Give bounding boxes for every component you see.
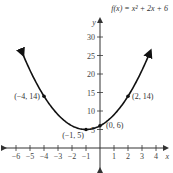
point-label: (0, 6) bbox=[106, 121, 124, 130]
x-tick-label: −2 bbox=[68, 152, 77, 161]
point-label: (−4, 14) bbox=[14, 92, 40, 101]
parabola-chart: xy−6−5−4−3−2−1123451015202530 (−4, 14)(−… bbox=[0, 0, 173, 173]
x-axis-label: x bbox=[164, 152, 169, 161]
curve-path bbox=[22, 53, 149, 130]
data-point bbox=[42, 94, 46, 98]
point-label: (2, 14) bbox=[132, 92, 154, 101]
x-tick-label: −4 bbox=[40, 152, 49, 161]
y-axis-label: y bbox=[91, 18, 96, 27]
x-tick-label: −3 bbox=[54, 152, 63, 161]
x-tick-label: −6 bbox=[12, 152, 21, 161]
x-tick-label: 1 bbox=[112, 152, 116, 161]
x-tick-label: −1 bbox=[82, 152, 91, 161]
labeled-points: (−4, 14)(−1, 5)(0, 6)(2, 14) bbox=[14, 92, 154, 139]
y-tick-label: 25 bbox=[87, 52, 95, 61]
point-label: (−1, 5) bbox=[62, 131, 84, 140]
y-tick-label: 20 bbox=[87, 70, 95, 79]
x-tick-label: 4 bbox=[154, 152, 158, 161]
x-tick-label: 2 bbox=[126, 152, 130, 161]
data-point bbox=[126, 94, 130, 98]
y-tick-label: 10 bbox=[87, 107, 95, 116]
x-tick-label: −5 bbox=[26, 152, 35, 161]
data-point bbox=[98, 124, 102, 128]
parabola-curve bbox=[22, 53, 149, 130]
data-point bbox=[84, 128, 88, 132]
y-tick-label: 30 bbox=[87, 33, 95, 42]
x-tick-label: 3 bbox=[140, 152, 144, 161]
chart-title: f(x) = x² + 2x + 6 bbox=[111, 4, 168, 13]
y-tick-label: 15 bbox=[87, 89, 95, 98]
y-tick-label: 5 bbox=[91, 126, 95, 135]
chart-canvas: xy−6−5−4−3−2−1123451015202530 (−4, 14)(−… bbox=[0, 0, 173, 173]
